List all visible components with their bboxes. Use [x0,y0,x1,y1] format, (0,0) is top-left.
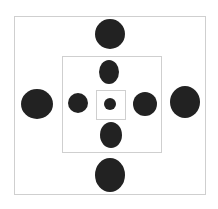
right-inner-dot [133,92,157,116]
center-dot [104,98,116,110]
right-outer-dot [170,86,200,118]
top-inner-dot [99,60,119,84]
top-outer-dot [95,19,125,49]
left-outer-dot [21,89,53,119]
bottom-inner-dot [100,122,122,148]
bottom-outer-dot [95,158,125,192]
left-inner-dot [68,93,88,113]
